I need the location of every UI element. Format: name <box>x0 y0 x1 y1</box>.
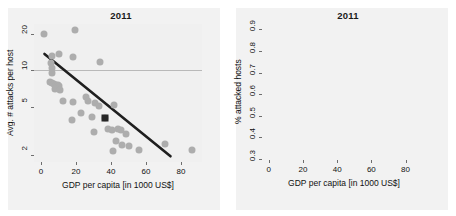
x-tick-mark <box>269 160 270 163</box>
x-tick-mark <box>406 160 407 163</box>
data-point <box>126 143 133 150</box>
chart-title-left: 2011 <box>0 10 228 21</box>
y-tick-label: 10 <box>20 61 29 70</box>
x-tick-label: 60 <box>367 165 376 174</box>
y-tick-label: 0.3 <box>248 150 257 161</box>
y-tick-mark <box>259 116 262 117</box>
x-tick-mark <box>303 160 304 163</box>
y-tick-label: 0.7 <box>248 64 257 75</box>
x-tick-mark <box>41 162 42 165</box>
data-point <box>78 110 85 117</box>
x-tick-label: 80 <box>401 165 410 174</box>
x-tick-mark <box>76 162 77 165</box>
y-tick-label: 0.8 <box>248 42 257 53</box>
data-point <box>110 101 117 108</box>
data-point <box>119 142 126 149</box>
y-tick-mark <box>31 155 34 156</box>
chart-panel-left: 2011 251020020406080 Avg. # attacks per … <box>0 0 228 216</box>
y-axis-title-left: Avg. # attacks per host <box>5 24 15 162</box>
y-tick-label: 2 <box>20 146 29 150</box>
y-tick-label: 0.5 <box>248 107 257 118</box>
data-point <box>162 141 169 148</box>
y-tick-mark <box>31 34 34 35</box>
y-tick-label: 5 <box>20 98 29 102</box>
y-tick-mark <box>259 159 262 160</box>
x-tick-mark <box>181 162 182 165</box>
x-tick-mark <box>371 160 372 163</box>
data-point <box>122 130 129 137</box>
x-tick-label: 80 <box>177 167 186 176</box>
data-point <box>90 128 97 135</box>
data-point <box>88 114 95 121</box>
x-tick-label: 40 <box>107 167 116 176</box>
x-tick-label: 40 <box>333 165 342 174</box>
y-tick-mark <box>31 70 34 71</box>
x-tick-label: 20 <box>72 167 81 176</box>
highlighted-data-point <box>101 114 108 121</box>
data-point <box>68 116 75 123</box>
data-point <box>48 69 55 76</box>
y-tick-label: 20 <box>20 25 29 34</box>
y-tick-label: 0.6 <box>248 85 257 96</box>
x-axis-title-left: GDP per capita [in 1000 US$] <box>62 180 174 190</box>
data-point <box>188 146 195 153</box>
data-point <box>109 148 116 155</box>
data-point <box>59 97 66 104</box>
chart-title-right: 2011 <box>228 10 456 21</box>
x-tick-mark <box>111 162 112 165</box>
y-tick-mark <box>259 73 262 74</box>
data-point <box>136 146 143 153</box>
y-tick-mark <box>31 107 34 108</box>
y-tick-mark <box>259 137 262 138</box>
data-point <box>95 102 102 109</box>
data-point <box>40 31 47 38</box>
y-tick-label: 0.4 <box>248 128 257 139</box>
data-point <box>72 26 79 33</box>
data-point <box>96 59 103 66</box>
data-point <box>70 98 77 105</box>
y-tick-mark <box>259 51 262 52</box>
figure-root: 2011 251020020406080 Avg. # attacks per … <box>0 0 456 216</box>
x-tick-label: 0 <box>39 167 43 176</box>
x-tick-mark <box>337 160 338 163</box>
x-tick-label: 20 <box>299 165 308 174</box>
chart-panel-right: 2011 0.30.40.50.60.70.80.9020406080 % at… <box>228 0 456 216</box>
plot-area-left <box>34 24 202 162</box>
x-tick-mark <box>146 162 147 165</box>
x-tick-label: 0 <box>267 165 271 174</box>
x-tick-label: 60 <box>142 167 151 176</box>
y-tick-mark <box>259 94 262 95</box>
data-point <box>56 50 63 57</box>
data-point <box>85 97 92 104</box>
y-axis-title-right: % attacked hosts <box>233 24 243 160</box>
data-point <box>48 52 55 59</box>
y-tick-mark <box>259 29 262 30</box>
x-axis-title-right: GDP per capita [in 1000 US$] <box>288 178 400 188</box>
data-point <box>57 87 64 94</box>
data-point <box>70 54 77 61</box>
y-tick-label: 0.9 <box>248 20 257 31</box>
